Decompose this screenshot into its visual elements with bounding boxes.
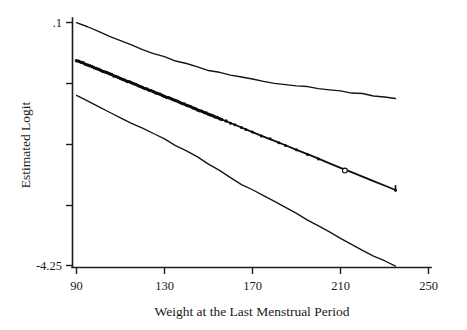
x-tick-label-130: 130 xyxy=(155,279,174,293)
data-point xyxy=(233,123,236,126)
data-point xyxy=(240,126,243,129)
open-circle-marker xyxy=(343,168,348,173)
data-point xyxy=(251,130,254,133)
x-axis-title: Weight at the Last Menstrual Period xyxy=(155,304,350,319)
x-tick-label-250: 250 xyxy=(419,279,438,293)
data-point xyxy=(244,128,247,131)
data-point xyxy=(269,137,272,140)
x-tick-label-210: 210 xyxy=(331,279,350,293)
data-point xyxy=(284,144,287,147)
x-tick-label-170: 170 xyxy=(243,279,262,293)
y-axis-ticks xyxy=(66,23,73,266)
data-point xyxy=(317,157,320,160)
upper-confidence-band xyxy=(77,23,396,99)
open-circle-data-point xyxy=(343,168,348,173)
lower-confidence-band xyxy=(77,95,396,266)
data-point xyxy=(277,141,280,144)
chart-figure: .1 -4.25 90 130 170 210 250 Weight at th… xyxy=(0,0,467,330)
data-point xyxy=(295,148,298,151)
x-tick-label-90: 90 xyxy=(70,279,83,293)
data-point xyxy=(306,153,309,156)
data-point xyxy=(260,134,263,137)
y-tick-label-top: .1 xyxy=(53,16,62,30)
x-axis-ticks xyxy=(77,268,429,275)
data-point xyxy=(224,119,228,123)
data-point xyxy=(220,118,224,122)
chart-plot-area: .1 -4.25 90 130 170 210 250 Weight at th… xyxy=(0,0,467,330)
y-tick-label-bottom: -4.25 xyxy=(36,259,62,273)
data-point xyxy=(229,122,232,125)
y-axis-title: Estimated Logit xyxy=(18,101,33,188)
